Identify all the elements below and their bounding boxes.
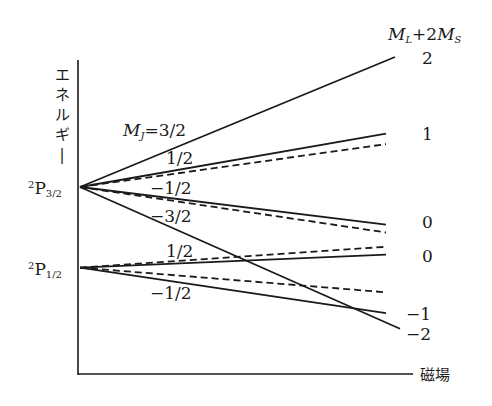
mj-label-p32-1-2: 1/2 bbox=[166, 148, 193, 168]
mj-label-3-2: MJ=3/2 bbox=[122, 120, 186, 141]
energy-line-dashed-4 bbox=[80, 187, 386, 233]
energy-line-dashed-9 bbox=[80, 268, 386, 293]
mj-label-p12-m1-2: −1/2 bbox=[150, 283, 192, 303]
svg-text:エネルギ|: エネルギ| bbox=[55, 66, 70, 164]
x-axis-label: 磁場 bbox=[420, 366, 450, 384]
energy-line-solid-3 bbox=[80, 187, 386, 225]
right-value-0a: 0 bbox=[422, 212, 433, 232]
energy-lines bbox=[80, 57, 400, 329]
right-value-m1: −1 bbox=[406, 304, 431, 324]
energy-line-solid-8 bbox=[80, 268, 386, 314]
mj-label-p32-m3-2: −3/2 bbox=[150, 206, 192, 226]
energy-line-dashed-2 bbox=[80, 144, 386, 187]
level-label-p32: 2P3/2 bbox=[28, 178, 62, 199]
right-value-m2: −2 bbox=[406, 324, 431, 344]
mj-label-p12-1-2: 1/2 bbox=[166, 241, 193, 261]
right-header: ML+2MS bbox=[387, 24, 462, 45]
level-label-p12: 2P1/2 bbox=[28, 259, 62, 280]
right-value-2: 2 bbox=[422, 48, 433, 68]
mj-label-p32-m1-2: −1/2 bbox=[150, 178, 192, 198]
zeeman-diagram: エネルギ| 磁場 ML+2MS 2P3/2 2P1/2 MJ=3/2 1/2 −… bbox=[0, 0, 492, 406]
right-value-0b: 0 bbox=[422, 246, 433, 266]
energy-line-solid-1 bbox=[80, 134, 386, 187]
right-value-1: 1 bbox=[422, 124, 433, 144]
energy-line-solid-6 bbox=[80, 255, 386, 268]
y-axis-label: エネルギ| bbox=[55, 66, 70, 164]
